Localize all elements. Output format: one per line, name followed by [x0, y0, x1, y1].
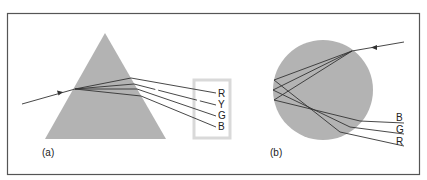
- label-r-a: R: [218, 88, 225, 99]
- label-b-b: B: [396, 112, 403, 123]
- label-b-a: B: [218, 121, 225, 132]
- caption-a: (a): [42, 147, 54, 158]
- dispersion-diagram: R Y G B (a) B G R (b): [0, 0, 427, 180]
- label-y-a: Y: [218, 99, 225, 110]
- caption-b: (b): [270, 147, 282, 158]
- label-g-a: G: [218, 110, 226, 121]
- label-g-b: G: [396, 124, 404, 135]
- droplet-circle: [273, 40, 373, 140]
- label-r-b: R: [396, 136, 403, 147]
